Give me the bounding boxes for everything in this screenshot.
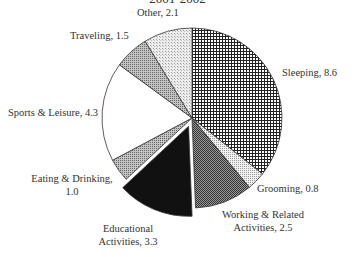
label-eating-line1: Eating & Drinking, <box>30 172 114 185</box>
label-educational: Educational Activities, 3.3 <box>88 222 168 248</box>
pie-slices <box>102 28 282 216</box>
label-sports-leisure: Sports & Leisure, 4.3 <box>8 106 98 119</box>
label-sleeping: Sleeping, 8.6 <box>282 66 337 79</box>
label-eating-drinking: Eating & Drinking, 1.0 <box>30 172 114 198</box>
label-educational-line1: Educational <box>88 222 168 235</box>
label-eating-line2: 1.0 <box>30 185 114 198</box>
label-traveling: Traveling, 1.5 <box>70 29 129 42</box>
label-working-line2: Activities, 2.5 <box>214 221 312 234</box>
label-working: Working & Related Activities, 2.5 <box>214 208 312 234</box>
label-other: Other, 2.1 <box>137 6 179 19</box>
label-working-line1: Working & Related <box>214 208 312 221</box>
label-grooming: Grooming, 0.8 <box>257 182 319 195</box>
label-educational-line2: Activities, 3.3 <box>88 235 168 248</box>
